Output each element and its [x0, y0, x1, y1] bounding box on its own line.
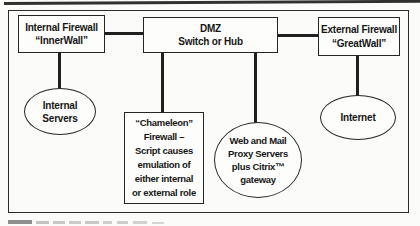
node-label: plus Citrix™ [232, 160, 284, 173]
node-label: Internal Firewall [25, 21, 98, 35]
connector-dmz-webmail [254, 52, 257, 123]
node-label: either internal [135, 172, 193, 186]
node-label: Proxy Servers [228, 147, 288, 160]
cropped-caption-marks [53, 221, 65, 224]
node-label: Script causes [135, 144, 193, 158]
node-label: “GreatWall” [332, 37, 386, 51]
node-label: Internet [340, 111, 375, 124]
node-label: Web and Mail [230, 134, 287, 147]
connector-external-firewall-internet [356, 55, 359, 96]
node-label: Switch or Hub [178, 35, 243, 49]
node-label: or external role [132, 186, 196, 200]
node-label: “InnerWall” [35, 34, 87, 48]
cropped-caption-marks [85, 221, 99, 224]
cropped-caption-marks [69, 221, 81, 224]
connector-dmz-chameleon [161, 52, 164, 113]
connector-internal-firewall-servers [58, 52, 61, 89]
cropped-caption-marks [36, 221, 49, 224]
node-label: Internal [43, 99, 78, 112]
node-external-firewall: External Firewall “GreatWall” [318, 17, 400, 56]
node-label: Servers [42, 112, 77, 125]
node-chameleon-firewall: “Chameleon” Firewall – Script causes emu… [124, 112, 204, 204]
cropped-caption-marks [152, 222, 164, 224]
node-label: “Chameleon” [135, 116, 192, 130]
node-label: emulation of [138, 158, 191, 172]
cropped-caption-marks [117, 221, 128, 224]
node-label: gateway [240, 173, 275, 186]
node-label: External Firewall [321, 23, 397, 37]
cropped-caption-marks [103, 221, 112, 224]
node-internal-firewall: Internal Firewall “InnerWall” [18, 15, 105, 53]
node-label: DMZ [200, 22, 221, 36]
network-diagram-figure: Internal Firewall “InnerWall” DMZ Switch… [0, 0, 420, 226]
node-internal-servers: Internal Servers [24, 88, 96, 135]
node-label: Firewall – [144, 130, 184, 144]
cropped-caption-marks [8, 220, 32, 224]
cropped-caption-marks [133, 221, 147, 224]
connector-internal-firewall-dmz [104, 32, 144, 35]
node-internet: Internet [320, 95, 396, 140]
top-rule-divider [4, 0, 420, 5]
connector-dmz-external-firewall [277, 34, 319, 37]
node-web-mail-proxy: Web and Mail Proxy Servers plus Citrix™ … [214, 122, 302, 198]
node-dmz-switch: DMZ Switch or Hub [143, 17, 278, 53]
